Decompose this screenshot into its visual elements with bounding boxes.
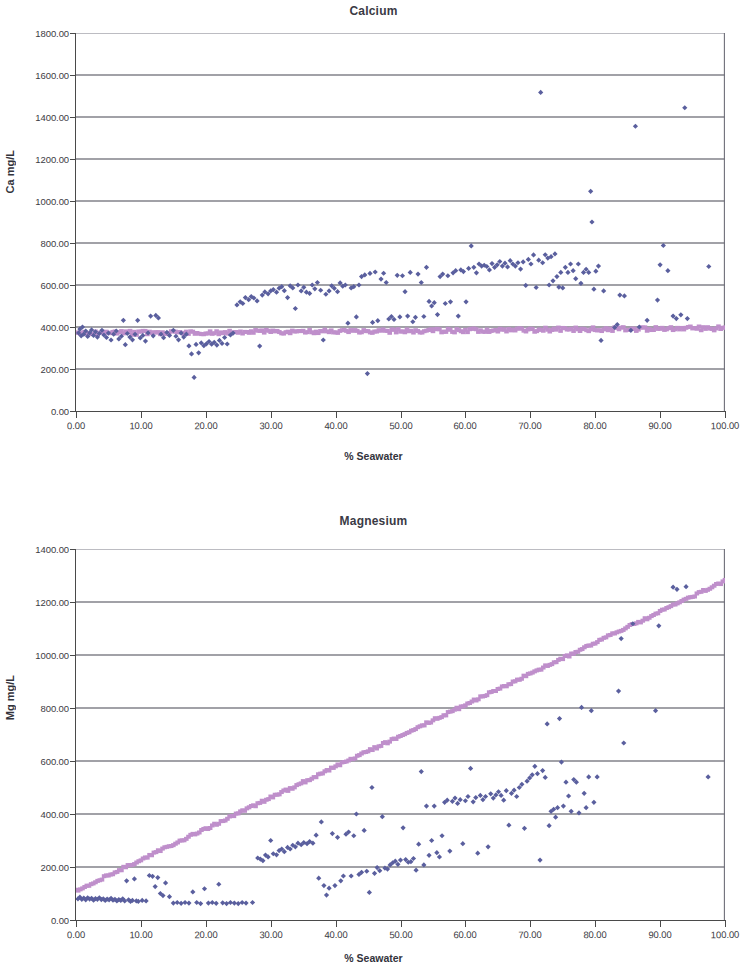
measured-data-point xyxy=(504,788,509,793)
measured-data-point xyxy=(474,270,479,275)
measured-data-point xyxy=(381,271,386,276)
measured-data-point xyxy=(595,774,600,779)
conservative-mixing-point xyxy=(723,325,725,329)
y-axis-tick-mark xyxy=(70,761,76,762)
measured-data-point xyxy=(416,842,421,847)
measured-data-point xyxy=(589,219,594,224)
measured-data-point xyxy=(232,900,237,905)
y-axis-tick-label: 1200.00 xyxy=(35,154,69,165)
measured-data-point xyxy=(560,285,565,290)
measured-data-point xyxy=(518,266,523,271)
measured-data-point xyxy=(656,623,661,628)
x-axis-tick-mark xyxy=(401,920,402,927)
y-axis-tick-label: 800.00 xyxy=(41,703,69,714)
measured-data-point xyxy=(424,803,429,808)
measured-data-point xyxy=(565,270,570,275)
x-axis-tick-mark xyxy=(206,920,207,927)
y-axis-tick-label: 600.00 xyxy=(41,756,69,767)
measured-data-point xyxy=(370,320,375,325)
measured-data-point xyxy=(683,584,688,589)
measured-data-point xyxy=(190,889,195,894)
measured-data-point xyxy=(240,900,245,905)
measured-data-point xyxy=(536,258,541,263)
measured-data-point xyxy=(421,314,426,319)
chart-title-magnesium: Magnesium xyxy=(0,514,747,528)
chart-figure-magnesium: Magnesium Mg mg/L 0.00200.00400.00600.00… xyxy=(0,500,747,973)
y-axis-tick-label: 1000.00 xyxy=(35,196,69,207)
measured-data-point xyxy=(356,282,361,287)
measured-data-point xyxy=(222,335,227,340)
measured-data-point xyxy=(547,282,552,287)
measured-data-point xyxy=(678,312,683,317)
measured-data-point xyxy=(354,314,359,319)
measured-data-point xyxy=(598,338,603,343)
measured-data-point xyxy=(589,708,594,713)
plot-wrapper-calcium: 0.00200.00400.00600.00800.001000.001200.… xyxy=(75,33,724,411)
measured-data-point xyxy=(314,833,319,838)
measured-data-point xyxy=(282,288,287,293)
x-axis-tick-label: 80.00 xyxy=(583,929,606,940)
measured-data-point xyxy=(324,892,329,897)
measured-data-point xyxy=(362,828,367,833)
measured-data-point xyxy=(579,705,584,710)
measured-data-point xyxy=(531,252,536,257)
measured-data-point xyxy=(378,277,383,282)
measured-data-point xyxy=(413,868,418,873)
measured-data-point xyxy=(552,251,557,256)
x-axis-tick-label: 0.00 xyxy=(67,929,85,940)
measured-data-point xyxy=(367,271,372,276)
measured-data-point xyxy=(456,313,461,318)
measured-data-point xyxy=(189,351,194,356)
measured-data-point xyxy=(463,798,468,803)
measured-data-point xyxy=(601,288,606,293)
measured-data-point xyxy=(330,831,335,836)
measured-data-point xyxy=(550,278,555,283)
measured-data-point xyxy=(621,740,626,745)
measured-data-point xyxy=(349,873,354,878)
y-axis-tick-mark xyxy=(70,549,76,550)
measured-data-point xyxy=(528,261,533,266)
measured-data-point xyxy=(148,313,153,318)
measured-data-point xyxy=(443,301,448,306)
measured-data-point xyxy=(310,282,315,287)
conservative-mixing-point xyxy=(100,878,105,882)
measured-data-point xyxy=(285,295,290,300)
measured-data-point xyxy=(338,878,343,883)
measured-data-point xyxy=(182,900,187,905)
x-axis-tick-mark xyxy=(465,920,466,927)
measured-data-point xyxy=(471,265,476,270)
measured-data-point xyxy=(132,876,137,881)
measured-data-point xyxy=(179,901,184,906)
x-axis-tick-label: 20.00 xyxy=(194,420,217,431)
measured-data-point xyxy=(155,875,160,880)
x-axis-tick-mark xyxy=(271,920,272,927)
measured-data-point xyxy=(323,292,328,297)
measured-data-point xyxy=(426,299,431,304)
measured-data-point xyxy=(108,337,113,342)
measured-data-point xyxy=(216,882,221,887)
y-axis-tick-label: 800.00 xyxy=(41,238,69,249)
y-axis-tick-mark xyxy=(70,285,76,286)
measured-data-point xyxy=(534,285,539,290)
y-axis-tick-mark xyxy=(70,327,76,328)
x-axis-tick-label: 30.00 xyxy=(259,929,282,940)
measured-data-point xyxy=(645,318,650,323)
y-axis-tick-mark xyxy=(70,75,76,76)
measured-data-point xyxy=(469,243,474,248)
measured-data-point xyxy=(196,350,201,355)
measured-data-point xyxy=(373,269,378,274)
plot-area-calcium: 0.00200.00400.00600.00800.001000.001200.… xyxy=(75,33,725,412)
x-axis-tick-label: 20.00 xyxy=(194,929,217,940)
y-axis-tick-label: 200.00 xyxy=(41,862,69,873)
measured-data-point xyxy=(186,343,191,348)
y-axis-tick-label: 1200.00 xyxy=(35,597,69,608)
x-axis-tick-mark xyxy=(465,411,466,418)
x-axis-tick-label: 70.00 xyxy=(519,420,542,431)
measured-data-point xyxy=(419,280,424,285)
measured-data-point xyxy=(573,276,578,281)
measured-data-point xyxy=(488,791,493,796)
measured-data-point xyxy=(523,283,528,288)
measured-data-point xyxy=(448,299,453,304)
figure-page: Calcium Ca mg/L 0.00200.00400.00600.0080… xyxy=(0,0,747,973)
measured-data-point xyxy=(532,764,537,769)
